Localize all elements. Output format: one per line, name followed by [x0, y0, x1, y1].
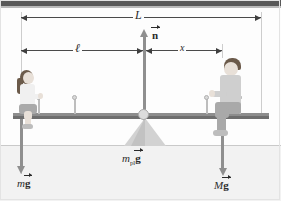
- physics-diagram-seesaw: L ℓ x n mplg mg Mg: [0, 0, 281, 201]
- figure-frame: [0, 0, 280, 200]
